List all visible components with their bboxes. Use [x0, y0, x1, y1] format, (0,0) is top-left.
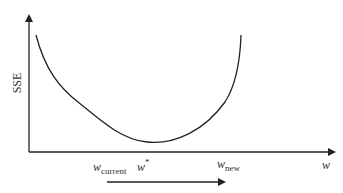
w-current-label: wcurrent [93, 160, 127, 176]
sse-curve [36, 35, 241, 142]
w-star-label: w* [137, 157, 150, 174]
w-new-label: wnew [217, 157, 241, 173]
sse-curve-diagram: SSE wcurrent w* wnew w [0, 0, 343, 193]
y-axis-label: SSE [10, 73, 24, 94]
x-axis-label: w [322, 158, 330, 172]
